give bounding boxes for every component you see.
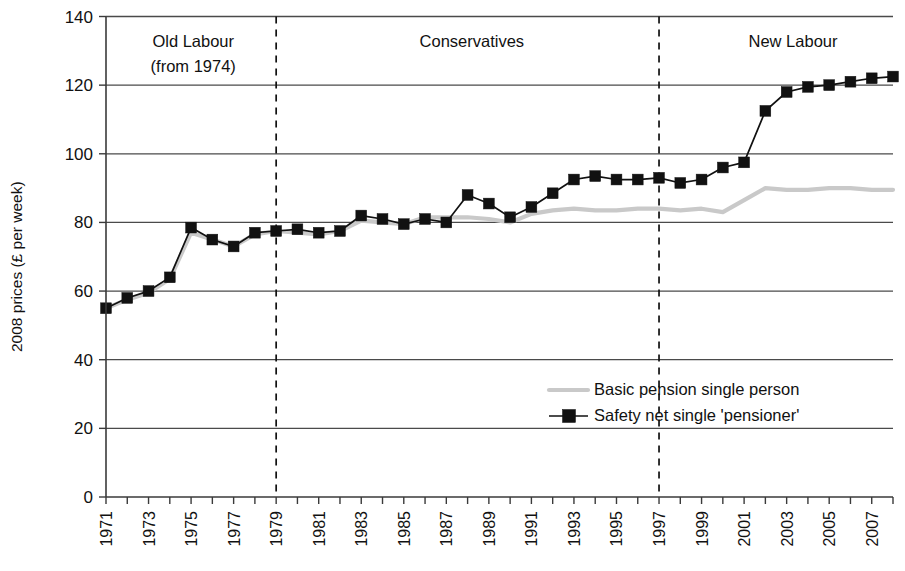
pension-line-chart: 020406080100120140 197119731975197719791… — [0, 0, 905, 571]
era-label-conservatives: Conservatives — [420, 32, 525, 50]
series-line-basic-pension — [106, 188, 893, 308]
y-tick-label-0: 0 — [84, 488, 93, 507]
x-tick-label-1993: 1993 — [566, 511, 583, 547]
x-tick-label-1985: 1985 — [396, 511, 413, 547]
x-tick-label-1997: 1997 — [651, 511, 668, 547]
data-point-safety-net-1972 — [122, 293, 133, 304]
x-tick-label-2001: 2001 — [736, 511, 753, 547]
x-tick-label-1975: 1975 — [183, 511, 200, 547]
x-tick-label-1973: 1973 — [141, 511, 158, 547]
data-point-safety-net-1998 — [675, 178, 686, 189]
data-point-safety-net-1977 — [228, 241, 239, 252]
era-label-new-labour: New Labour — [749, 32, 838, 50]
data-point-safety-net-2005 — [824, 80, 835, 91]
data-point-safety-net-1980 — [292, 224, 303, 235]
y-tick-label-140: 140 — [65, 8, 93, 27]
x-tick-label-2005: 2005 — [821, 511, 838, 547]
x-tick-label-2003: 2003 — [779, 511, 796, 547]
data-point-safety-net-1997 — [654, 172, 665, 183]
data-point-safety-net-1984 — [377, 214, 388, 225]
data-point-safety-net-1979 — [271, 226, 282, 237]
data-point-safety-net-1995 — [611, 174, 622, 185]
data-point-safety-net-1987 — [441, 217, 452, 228]
data-point-safety-net-1973 — [143, 286, 154, 297]
x-tick-label-1999: 1999 — [694, 511, 711, 547]
data-point-safety-net-1988 — [462, 190, 473, 201]
data-point-safety-net-1981 — [313, 227, 324, 238]
data-point-safety-net-1983 — [356, 210, 367, 221]
y-tick-label-80: 80 — [74, 213, 93, 232]
chart-container: 020406080100120140 197119731975197719791… — [0, 0, 905, 571]
era-label-old-labour: Old Labour — [152, 32, 234, 50]
y-axis-label-group: 2008 prices (£ per week) — [8, 181, 25, 352]
data-point-safety-net-1975 — [186, 222, 197, 233]
data-point-safety-net-1974 — [164, 272, 175, 283]
axes-group — [106, 17, 893, 498]
x-tick-label-1983: 1983 — [353, 511, 370, 547]
data-point-safety-net-1978 — [249, 227, 260, 238]
data-point-safety-net-1989 — [483, 198, 494, 209]
data-point-safety-net-1982 — [335, 226, 346, 237]
x-tick-label-1981: 1981 — [311, 511, 328, 547]
y-tick-group: 020406080100120140 — [65, 8, 106, 508]
era-dividers-group — [276, 17, 659, 498]
data-point-safety-net-1992 — [547, 188, 558, 199]
data-point-safety-net-1991 — [526, 202, 537, 213]
y-tick-label-40: 40 — [74, 351, 93, 370]
data-point-safety-net-2008 — [888, 71, 899, 82]
data-point-safety-net-2007 — [866, 73, 877, 84]
y-tick-label-20: 20 — [74, 419, 93, 438]
data-point-safety-net-1976 — [207, 234, 218, 245]
x-tick-group: 1971197319751977197919811983198519871989… — [98, 497, 893, 547]
legend-group: Basic pension single person Safety net s… — [549, 380, 799, 424]
data-point-safety-net-2000 — [717, 162, 728, 173]
data-series-group — [101, 71, 899, 313]
series-line-safety-net — [106, 77, 893, 309]
x-tick-label-1987: 1987 — [438, 511, 455, 547]
x-tick-label-2007: 2007 — [864, 511, 881, 547]
data-point-safety-net-1994 — [590, 171, 601, 182]
legend-marker-safety-net — [563, 410, 576, 423]
x-tick-label-1991: 1991 — [523, 511, 540, 547]
y-tick-label-100: 100 — [65, 145, 93, 164]
data-point-safety-net-2001 — [739, 157, 750, 168]
x-tick-label-1989: 1989 — [481, 511, 498, 547]
data-point-safety-net-1990 — [505, 212, 516, 223]
x-tick-label-1995: 1995 — [608, 511, 625, 547]
x-tick-label-1977: 1977 — [226, 511, 243, 547]
x-tick-label-1979: 1979 — [268, 511, 285, 547]
data-point-safety-net-1999 — [696, 174, 707, 185]
y-axis-label: 2008 prices (£ per week) — [8, 181, 25, 352]
legend-label-safety-net: Safety net single 'pensioner' — [594, 406, 799, 424]
data-point-safety-net-1985 — [398, 219, 409, 230]
y-tick-label-60: 60 — [74, 282, 93, 301]
data-point-safety-net-1996 — [632, 174, 643, 185]
data-point-safety-net-1993 — [569, 174, 580, 185]
legend-label-basic-pension: Basic pension single person — [594, 380, 799, 398]
data-point-safety-net-2002 — [760, 105, 771, 116]
y-tick-label-120: 120 — [65, 76, 93, 95]
x-tick-label-1971: 1971 — [98, 511, 115, 547]
data-point-safety-net-2004 — [803, 81, 814, 92]
era-annotations-group: Old Labour(from 1974)ConservativesNew La… — [151, 32, 838, 75]
era-sublabel-old-labour: (from 1974) — [151, 57, 236, 75]
data-point-safety-net-2006 — [845, 76, 856, 87]
data-point-safety-net-2003 — [781, 87, 792, 98]
data-point-safety-net-1986 — [420, 214, 431, 225]
